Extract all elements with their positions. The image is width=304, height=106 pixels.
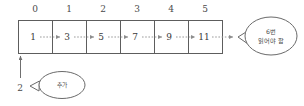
index-header-row: 0 1 2 3 4 5 (32, 4, 208, 14)
index-label-2: 2 (100, 4, 106, 14)
array-cell-2[interactable]: 5 (98, 32, 104, 42)
diagram-canvas: 0 1 2 3 4 5 1 3 5 7 9 11 (0, 0, 304, 106)
add-note-bubble-tail (30, 81, 40, 91)
index-label-1: 1 (66, 4, 72, 14)
array-cell-4[interactable]: 9 (166, 32, 172, 42)
add-note-line-1: 추가 (57, 81, 68, 89)
array-cell-3[interactable]: 7 (132, 32, 138, 42)
index-label-5: 5 (202, 4, 208, 14)
shift-note-bubble-body (245, 17, 297, 55)
index-label-3: 3 (134, 4, 140, 14)
array-cell-1[interactable]: 3 (64, 32, 70, 42)
insert-pointer: 2 (17, 56, 23, 93)
array-cell-5[interactable]: 11 (198, 32, 209, 42)
index-label-0: 0 (32, 4, 38, 14)
add-note-bubble: 추가 (30, 72, 85, 99)
array-container (19, 21, 223, 54)
shift-note-line-1: 6번 (266, 28, 276, 35)
insert-value-label: 2 (17, 83, 23, 93)
index-label-4: 4 (168, 4, 174, 14)
shift-note-line-2: 읽어야 함 (258, 37, 284, 45)
shift-note-bubble: 6번 읽어야 함 (238, 17, 297, 55)
array-cell-0[interactable]: 1 (30, 32, 36, 42)
